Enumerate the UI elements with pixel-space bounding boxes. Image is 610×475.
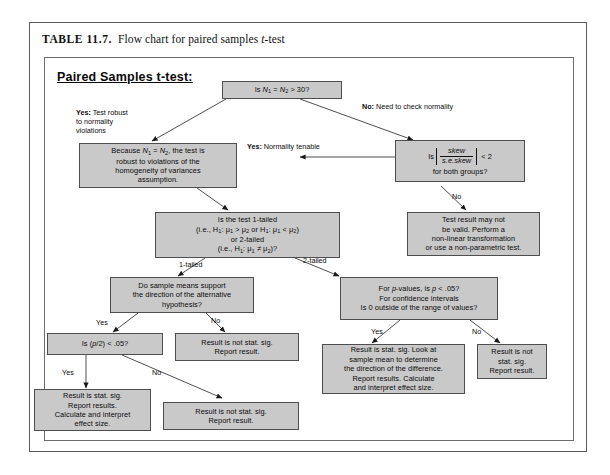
n12-line2: sample mean to determine	[326, 355, 461, 364]
n3-denominator: s.e.skew	[440, 157, 473, 166]
n12-line4: Report results. Calculate	[326, 374, 461, 383]
node-result-not-sig-onetailed[interactable]: Result is not stat. sig. Report result.	[163, 402, 299, 430]
n4-line3: non-linear transformation	[411, 234, 536, 243]
caption-text-before: Flow chart for paired samples	[118, 33, 261, 45]
n10-line1: Result is stat. sig.	[38, 391, 147, 400]
n2-line4: assumption.	[83, 175, 233, 184]
edge-label-no-p: No	[472, 327, 481, 336]
n4-line1: Test result may not	[411, 215, 536, 224]
n10-line4: effect size.	[38, 419, 147, 428]
n13-line3: Report result.	[481, 366, 543, 375]
node-tail-check[interactable]: Is the test 1-tailed (i.e., H1: μ1 > μ2 …	[155, 212, 340, 258]
node-result-not-sig-direction[interactable]: Result is not stat. sig. Report result.	[175, 333, 299, 361]
n13-line2: stat. sig.	[481, 357, 543, 366]
edge-label-no-means: No	[211, 316, 220, 325]
n9-line2: Report result.	[179, 347, 295, 356]
n8-pre: Is (	[82, 339, 92, 348]
screenshot-page: TABLE 11.7.Flow chart for paired samples…	[0, 0, 610, 475]
n4-line2: be valid. Perform a	[411, 225, 536, 234]
n1-pre: Is	[255, 85, 263, 94]
n3-line2: for both groups?	[399, 167, 521, 176]
node-pvalue-check[interactable]: For p-values, is p < .05? For confidence…	[340, 277, 498, 320]
n7-line1: For p-values, is p < .05?	[344, 284, 494, 293]
edge-label-yes-normality: Yes: Normality tenable	[247, 142, 320, 151]
n3-fraction: skew s.e.skew	[440, 147, 473, 165]
edge-label-yes-p2: Yes	[62, 368, 74, 377]
n6-line2: the direction of the alternative	[114, 290, 250, 299]
n1-sub2: 2	[285, 88, 288, 94]
node-direction-check[interactable]: Do sample means support the direction of…	[110, 277, 254, 313]
n12-line3: the direction of the difference.	[326, 364, 461, 373]
n5-line3: or 2-tailed	[159, 235, 336, 244]
n9-line1: Result is not stat. sig.	[179, 338, 295, 347]
edge-label-one-tailed: 1-tailed	[179, 260, 203, 269]
yes-robust-bold: Yes:	[76, 108, 91, 117]
n6-line3: hypothesis?	[114, 300, 250, 309]
n1-eq: =	[271, 85, 280, 94]
n3-comparator: < 2	[481, 152, 492, 161]
n3-is: Is	[428, 152, 434, 161]
node-homogeneity-robust[interactable]: Because N1 = N2, the test is robust to v…	[79, 143, 237, 188]
edge-label-no-normality: No: Need to check normality	[362, 102, 453, 111]
edge-label-two-tailed: 2-tailed	[303, 256, 327, 265]
node-result-sig-twotailed[interactable]: Result is stat. sig. Look at sample mean…	[322, 344, 465, 394]
caption-text-after: -test	[264, 33, 284, 45]
n2-line3: homogeneity of variances	[83, 166, 233, 175]
n12-line1: Result is stat. sig. Look at	[326, 345, 461, 354]
n3-abs-bar-left	[436, 148, 437, 165]
n8-post: /2) < .05?	[96, 339, 128, 348]
edge-label-no-p2: No	[152, 368, 161, 377]
n3-abs-bar-right	[476, 148, 477, 165]
node-sample-size-check[interactable]: Is N1 = N2 > 30?	[222, 81, 342, 99]
n5-line1: Is the test 1-tailed	[159, 215, 336, 224]
node-skew-check[interactable]: Is skew s.e.skew < 2 for both groups?	[395, 140, 525, 182]
n5-line2: (i.e., H1: μ1 > μ2 or H1: μ1 < μ2)	[159, 225, 336, 235]
n13-line1: Result is not	[481, 347, 543, 356]
n6-line1: Do sample means support	[114, 281, 250, 290]
n11-line1: Result is not stat. sig.	[167, 407, 295, 416]
table-caption: TABLE 11.7.Flow chart for paired samples…	[42, 33, 285, 45]
n3-formula-row: Is skew s.e.skew < 2	[399, 145, 521, 167]
n10-line2: Report results.	[38, 401, 147, 410]
node-result-not-sig-twotailed[interactable]: Result is not stat. sig. Report result.	[477, 344, 547, 379]
edge-label-no-skew: No	[452, 192, 461, 201]
n1-sub1: 1	[268, 88, 271, 94]
edge-label-yes-p: Yes	[371, 327, 383, 336]
n7-line2: For confidence intervals	[344, 294, 494, 303]
chart-title: Paired Samples t-test:	[57, 70, 193, 84]
n10-line3: Calculate and interpret	[38, 410, 147, 419]
n5-line4: (i.e., H1: μ1 ≠ μ2)?	[159, 244, 336, 254]
n12-line5: and interpret effect size.	[326, 383, 461, 392]
node-result-sig-onetailed[interactable]: Result is stat. sig. Report results. Cal…	[34, 389, 151, 431]
n4-line4: or use a non-parametric test.	[411, 243, 536, 252]
n1-post: > 30?	[288, 85, 309, 94]
edge-label-yes-means: Yes	[96, 318, 108, 327]
node-half-p-check[interactable]: Is (p/2) < .05?	[47, 333, 163, 355]
node-invalid-result[interactable]: Test result may not be valid. Perform a …	[407, 212, 540, 256]
table-number: TABLE 11.7.	[42, 33, 112, 45]
n2-line1: Because N1 = N2, the test is	[83, 146, 233, 156]
n11-line2: Report result.	[167, 416, 295, 425]
edge-label-yes-robust: Yes: Test robust to normality violations	[76, 108, 168, 135]
n2-line2: robust to violations of the	[83, 157, 233, 166]
n7-line3: Is 0 outside of the range of values?	[344, 303, 494, 312]
